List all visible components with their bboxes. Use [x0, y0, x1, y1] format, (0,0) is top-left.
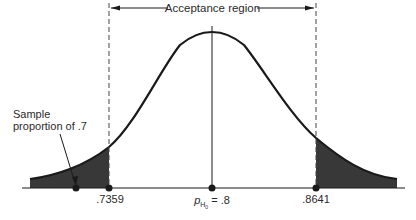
- annotation-line1: Sample: [13, 108, 50, 120]
- arrowhead-right-icon: [305, 6, 314, 11]
- left-rejection-region: [30, 147, 109, 188]
- right-rejection-region: [316, 138, 397, 188]
- tick-label-upper: .8641: [302, 193, 330, 205]
- tick-label-lower: .7359: [96, 193, 124, 205]
- normal-distribution-diagram: Acceptance region Sample proportion of .…: [0, 0, 416, 220]
- upper-critical-point: [313, 185, 320, 192]
- sample-point: [73, 185, 80, 192]
- normal-curve: [30, 32, 397, 179]
- lower-critical-point: [106, 185, 113, 192]
- mean-point: [209, 185, 216, 192]
- tick-label-mean: pH0 = .8: [193, 194, 230, 210]
- acceptance-region-label: Acceptance region: [165, 2, 260, 14]
- annotation-line2: proportion of .7: [13, 120, 87, 132]
- arrowhead-left-icon: [111, 6, 120, 11]
